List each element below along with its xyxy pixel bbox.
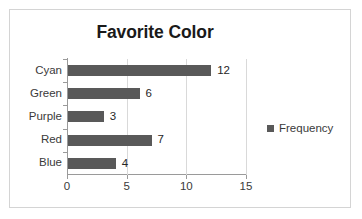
x-tick-label-0: 0 [64,181,70,193]
y-tick-mark-red [63,129,67,130]
gridline-x-15 [246,59,247,175]
y-category-label-red: Red [10,134,62,146]
bar-row-purple[interactable]: 3 [68,105,116,128]
bar-value-label-green: 6 [146,88,152,100]
bar-red[interactable] [68,135,152,146]
bar-cyan[interactable] [68,65,211,76]
chart-frame: Favorite Color BlueRedPurpleGreenCyan 47… [9,9,351,208]
bar-value-label-red: 7 [158,134,164,146]
y-tick-mark-cyan [63,59,67,60]
bar-green[interactable] [68,88,140,99]
bar-row-green[interactable]: 6 [68,82,152,105]
x-tick-label-10: 10 [180,181,193,193]
x-tick-label-5: 5 [123,181,129,193]
bar-row-blue[interactable]: 4 [68,152,128,175]
bar-purple[interactable] [68,111,104,122]
bar-row-red[interactable]: 7 [68,129,164,152]
legend-swatch-frequency [267,125,274,132]
y-tick-mark-blue [63,152,67,153]
bar-value-label-purple: 3 [110,111,116,123]
y-axis-category-labels: BlueRedPurpleGreenCyan [9,59,62,175]
x-tick-label-15: 15 [240,181,253,193]
x-tick-mark-5 [127,175,128,179]
x-tick-mark-0 [67,175,68,179]
y-tick-mark-green [63,82,67,83]
x-tick-mark-15 [246,175,247,179]
x-axis-ticks: 051015 [67,175,246,197]
y-category-label-purple: Purple [10,111,62,123]
y-tick-mark-purple [63,105,67,106]
chart-title: Favorite Color [10,22,300,43]
y-category-label-cyan: Cyan [10,65,62,77]
y-category-label-green: Green [10,88,62,100]
bar-blue[interactable] [68,158,116,169]
chart-legend: Frequency [267,123,333,135]
legend-label-frequency: Frequency [279,123,333,135]
plot-area: 473612 [67,59,246,175]
bar-value-label-cyan: 12 [217,65,230,77]
bar-row-cyan[interactable]: 12 [68,59,230,82]
bar-value-label-blue: 4 [122,158,128,170]
y-category-label-blue: Blue [10,157,62,169]
x-tick-mark-10 [186,175,187,179]
